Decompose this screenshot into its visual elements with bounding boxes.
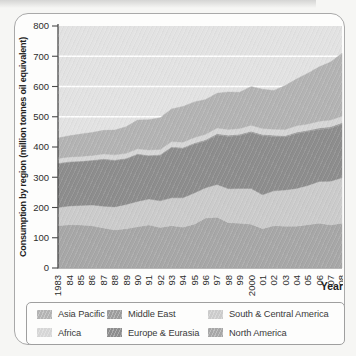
svg-text:93: 93 [166, 275, 177, 286]
svg-text:1983: 1983 [52, 275, 63, 296]
svg-text:86: 86 [86, 275, 97, 286]
x-axis-title: Year [321, 280, 343, 292]
svg-text:88: 88 [109, 275, 120, 286]
svg-text:98: 98 [223, 275, 234, 286]
legend-label: Middle East [128, 309, 175, 319]
svg-text:96: 96 [200, 275, 211, 286]
chart-card: 0100200300400500600700800198384858687888… [14, 13, 345, 345]
x-axis-labels: 1983848586878889909192939495969798992000… [52, 275, 343, 296]
legend-label: Europe & Eurasia [128, 328, 199, 338]
svg-text:800: 800 [33, 20, 49, 31]
legend-label: North America [229, 328, 287, 338]
svg-text:2000: 2000 [246, 275, 257, 296]
svg-text:85: 85 [75, 275, 86, 286]
svg-text:03: 03 [280, 275, 291, 286]
svg-text:200: 200 [33, 202, 49, 213]
svg-text:600: 600 [33, 81, 49, 92]
svg-text:700: 700 [33, 51, 49, 62]
legend-item-europe-eurasia: Europe & Eurasia [107, 328, 208, 338]
svg-text:300: 300 [33, 172, 49, 183]
page: { "card": { "background": "#fdfdfc", "bo… [0, 0, 356, 356]
svg-text:05: 05 [302, 275, 313, 286]
svg-text:91: 91 [143, 275, 154, 286]
svg-text:89: 89 [121, 275, 132, 286]
legend-item-middle-east: Middle East [107, 309, 208, 319]
legend-swatch-europe-eurasia [107, 328, 122, 337]
svg-text:04: 04 [291, 275, 302, 286]
legend-label: South & Central America [229, 309, 329, 319]
svg-text:92: 92 [155, 275, 166, 286]
svg-text:87: 87 [98, 275, 109, 286]
consumption-area-chart: 0100200300400500600700800198384858687888… [15, 14, 343, 343]
svg-text:97: 97 [211, 275, 222, 286]
legend-swatch-africa [37, 328, 52, 337]
chart-legend: Asia Pacific Africa Middle East Europe &… [26, 302, 345, 345]
svg-text:400: 400 [33, 141, 49, 152]
legend-label: Asia Pacific [58, 309, 105, 319]
legend-item-africa: Africa [37, 328, 107, 338]
svg-text:500: 500 [33, 111, 49, 122]
legend-swatch-asia-pacific [37, 310, 52, 319]
svg-text:94: 94 [177, 275, 188, 286]
svg-text:95: 95 [189, 275, 200, 286]
y-axis-title: Consumption by region (million tonnes oi… [18, 37, 28, 257]
legend-swatch-north-america [208, 328, 223, 337]
svg-text:0: 0 [44, 262, 49, 273]
svg-text:01: 01 [257, 275, 268, 286]
svg-text:99: 99 [234, 275, 245, 286]
svg-text:84: 84 [64, 275, 75, 286]
svg-text:100: 100 [33, 232, 49, 243]
legend-item-asia-pacific: Asia Pacific [37, 309, 107, 319]
svg-text:02: 02 [268, 275, 279, 286]
svg-text:90: 90 [132, 275, 143, 286]
legend-item-north-america: North America [208, 328, 340, 338]
legend-swatch-middle-east [107, 310, 122, 319]
legend-swatch-south-central-america [208, 310, 223, 319]
legend-item-south-central-america: South & Central America [208, 309, 340, 319]
legend-label: Africa [58, 328, 81, 338]
